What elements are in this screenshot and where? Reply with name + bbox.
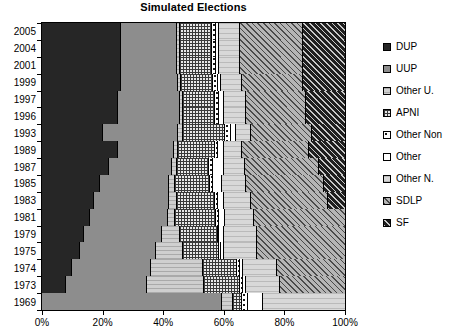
legend-item-sdlp[interactable]: SDLP: [383, 190, 459, 212]
legend-item-other_non[interactable]: Other Non: [383, 124, 459, 146]
bar-segment-other_n: [219, 57, 240, 74]
bar-segment-other_n: [224, 107, 247, 124]
legend-swatch-icon: [383, 87, 391, 95]
bar-segment-apni: [203, 259, 238, 276]
legend-item-other_n[interactable]: Other N.: [383, 168, 459, 190]
x-axis-tick-label: 40%: [153, 317, 173, 328]
bar-segment-uup: [103, 124, 179, 141]
bar-segment-other: [213, 175, 222, 192]
bar-segment-other_u: [222, 293, 233, 310]
bar-segment-other_n: [224, 91, 247, 108]
x-axis-tick-mark: [163, 311, 164, 315]
bar-segment-sdlp: [246, 107, 305, 124]
bar-segment-sf: [306, 91, 345, 108]
legend-swatch-icon: [383, 175, 391, 183]
chart-container: Simulated Elections 20052004200119991997…: [0, 0, 459, 336]
legend-item-uup[interactable]: UUP: [383, 58, 459, 80]
legend-item-sf[interactable]: SF: [383, 212, 459, 234]
bar-segment-other_n: [222, 175, 246, 192]
y-axis-tick-label: 1997: [14, 93, 36, 104]
bar-segment-sdlp: [277, 259, 345, 276]
bar-row: [42, 124, 345, 141]
bar-row: [42, 175, 345, 192]
bar-segment-other_n: [221, 74, 242, 91]
bar-segment-other_n: [224, 158, 245, 175]
bar-segment-uup: [100, 175, 170, 192]
chart-title: Simulated Elections: [41, 1, 346, 13]
bar-segment-dup: [42, 192, 94, 209]
x-axis-tick-mark: [284, 311, 285, 315]
bar-segment-uup: [118, 107, 180, 124]
bar-segment-sdlp: [242, 141, 309, 158]
y-axis: 2005200420011999199719961993198919871985…: [0, 22, 41, 311]
bar-segment-apni: [180, 40, 212, 57]
bar-segment-other_n: [263, 293, 345, 310]
x-axis-tick-mark: [345, 311, 346, 315]
bar-row: [42, 158, 345, 175]
legend-item-dup[interactable]: DUP: [383, 36, 459, 58]
bar-segment-apni: [183, 242, 219, 259]
chart-legend: DUPUUPOther U.APNIOther NonOtherOther N.…: [383, 36, 459, 234]
bar-segment-dup: [42, 175, 100, 192]
bar-segment-apni: [177, 192, 215, 209]
bar-segment-sdlp: [251, 124, 312, 141]
bar-segment-uup: [121, 74, 179, 91]
y-axis-tick-label: 2001: [14, 60, 36, 71]
bar-segment-dup: [42, 242, 80, 259]
x-axis-tick-mark: [42, 311, 43, 315]
legend-item-other[interactable]: Other: [383, 146, 459, 168]
bar-segment-sf: [312, 124, 345, 141]
legend-swatch-icon: [383, 219, 391, 227]
bar-segment-sdlp: [246, 91, 305, 108]
legend-item-label: Other Non: [396, 130, 442, 140]
y-axis-tick-label: 1974: [14, 262, 36, 273]
bar-segment-apni: [180, 57, 212, 74]
bar-row: [42, 74, 345, 91]
bar-segment-apni: [233, 293, 242, 310]
bar-row: [42, 40, 345, 57]
legend-item-other_u[interactable]: Other U.: [383, 80, 459, 102]
bar-row: [42, 23, 345, 40]
bar-segment-apni: [204, 276, 240, 293]
y-axis-tick-label: 1983: [14, 195, 36, 206]
bar-row: [42, 192, 345, 209]
bar-segment-dup: [42, 23, 121, 40]
bar-segment-apni: [177, 158, 209, 175]
x-axis-tick-label: 0%: [35, 317, 49, 328]
bar-segment-sdlp: [257, 242, 345, 259]
bar-row: [42, 259, 345, 276]
bar-segment-other_n: [224, 192, 251, 209]
bar-segment-uup: [80, 242, 156, 259]
bar-segment-other: [248, 293, 263, 310]
bar-segment-uup: [121, 57, 177, 74]
legend-item-label: DUP: [396, 42, 417, 52]
bar-segment-other_n: [224, 226, 257, 243]
bar-segment-sf: [303, 74, 345, 91]
bar-segment-other_n: [224, 141, 242, 158]
bar-segment-sdlp: [254, 209, 345, 226]
bar-segment-sf: [303, 23, 345, 40]
legend-item-label: Other: [396, 152, 421, 162]
bar-segment-uup: [90, 209, 167, 226]
bar-segment-sdlp: [280, 276, 345, 293]
legend-item-apni[interactable]: APNI: [383, 102, 459, 124]
bar-row: [42, 226, 345, 243]
bar-segment-sdlp: [257, 226, 345, 243]
bar-segment-sf: [319, 158, 345, 175]
plot-area: [41, 22, 346, 311]
legend-swatch-icon: [383, 65, 391, 73]
bar-row: [42, 107, 345, 124]
x-axis-tick-mark: [103, 311, 104, 315]
bar-segment-dup: [42, 57, 121, 74]
bar-segment-other_n: [225, 209, 254, 226]
bar-row: [42, 141, 345, 158]
bar-row: [42, 276, 345, 293]
bar-segment-other_u: [169, 192, 177, 209]
bar-segment-sf: [309, 141, 345, 158]
bar-segment-uup: [72, 259, 151, 276]
bar-segment-dup: [42, 107, 118, 124]
bar-segment-other_n: [224, 242, 257, 259]
bar-segment-sdlp: [240, 40, 302, 57]
bar-segment-other_n: [236, 124, 251, 141]
bar-segment-other_n: [243, 259, 276, 276]
